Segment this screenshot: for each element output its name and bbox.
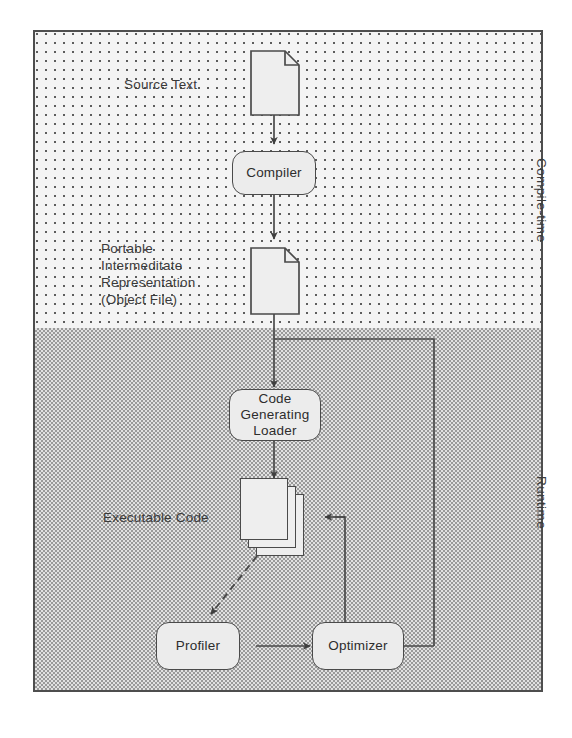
node-code-generating-loader[interactable]: Code Generating Loader (229, 389, 321, 441)
node-profiler[interactable]: Profiler (156, 622, 240, 670)
band-label-runtime: Runtime (534, 476, 549, 529)
band-label-compile-time: Compile-time (534, 158, 549, 242)
stack-sheet-front (240, 478, 288, 540)
source-text-document-icon (250, 50, 300, 120)
diagram-frame: Compile-time Runtime Source Text Compile… (33, 30, 543, 692)
label-executable-code: Executable Code (103, 509, 209, 526)
label-source-text: Source Text (124, 76, 197, 93)
node-optimizer[interactable]: Optimizer (312, 622, 404, 670)
label-portable-intermediate-representation: Portable Intermeditate Representation (O… (101, 240, 195, 308)
node-compiler[interactable]: Compiler (232, 151, 316, 195)
pir-document-icon (250, 247, 300, 319)
executable-code-stack-icon[interactable] (240, 478, 312, 560)
diagram-canvas: Compile-time Runtime Source Text Compile… (0, 0, 572, 738)
